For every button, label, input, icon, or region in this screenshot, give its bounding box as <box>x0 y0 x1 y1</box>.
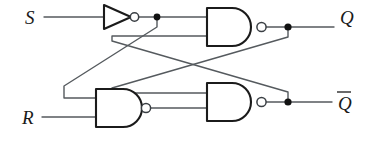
nand-gate-bottom-right-body <box>207 83 251 121</box>
logic-circuit-svg: S R Q Q <box>0 0 371 165</box>
junction-dot-qbar <box>284 98 291 105</box>
output-label-q: Q <box>340 7 354 28</box>
wire-cross-q-to-nand-bottom-right <box>112 27 288 93</box>
wire-cross-qbar-to-nand-top <box>112 36 288 102</box>
circuit-diagram-canvas: S R Q Q <box>0 0 371 165</box>
output-label-qbar: Q <box>338 93 352 114</box>
inverter-gate <box>104 5 139 29</box>
nand-gate-bottom-left-body <box>96 89 142 127</box>
input-label-s: S <box>25 7 35 28</box>
nand-gate-bottom-right-bubble-icon <box>257 97 266 106</box>
inverter-triangle <box>104 5 131 29</box>
nand-gate-bottom-left-bubble-icon <box>141 103 150 112</box>
nand-gate-top <box>207 8 266 46</box>
nand-gate-bottom-left <box>96 89 151 127</box>
input-label-r: R <box>21 107 34 128</box>
nand-gate-top-bubble-icon <box>257 22 266 31</box>
inverter-bubble-icon <box>130 13 138 21</box>
wire-inverter-to-nand-bottom-left <box>64 17 157 98</box>
junction-dot-inverter-out <box>154 14 161 21</box>
nand-gate-bottom-right <box>207 83 266 121</box>
nand-gate-top-body <box>207 8 251 46</box>
junction-dot-q <box>284 23 291 30</box>
